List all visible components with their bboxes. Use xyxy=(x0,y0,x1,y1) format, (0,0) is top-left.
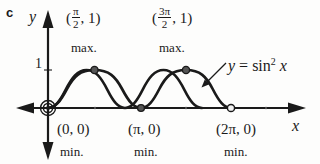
coordinate-label-two-pi: (2π, 0) xyxy=(216,122,256,137)
marked-point-peak-1 xyxy=(91,66,98,73)
min-label-pi: min. xyxy=(134,145,157,158)
marked-point-two-pi xyxy=(227,104,234,111)
marked-point-peak-2 xyxy=(182,66,189,73)
max-label-peak-1: max. xyxy=(71,41,97,54)
min-label-origin: min. xyxy=(60,145,83,158)
marked-point-pi xyxy=(138,105,145,112)
arrow-left-icon xyxy=(16,103,34,114)
marked-point-origin xyxy=(41,101,56,116)
arrow-down-icon xyxy=(43,142,54,160)
peak2-rest: , 1) xyxy=(172,10,192,26)
coordinate-label-pi: (π, 0) xyxy=(128,122,161,137)
peak1-open-paren: ( xyxy=(66,11,71,26)
peak1-denominator: 2 xyxy=(72,18,80,30)
arrow-right-icon xyxy=(288,103,306,114)
coordinate-label-peak-2: (3π2, 1) xyxy=(152,7,192,31)
curve-equation-label: y = sin2 x xyxy=(228,58,287,74)
peak2-numerator: 3π xyxy=(158,6,171,18)
equation-y: y xyxy=(228,57,235,74)
equation-function: sin xyxy=(252,57,271,74)
x-axis-label: x xyxy=(292,118,299,134)
peak1-fraction: π2 xyxy=(72,6,80,30)
figure-container: c y x 1 (π2, 1) (3π2, 1) max. max. (0, 0… xyxy=(0,0,320,164)
coordinate-label-peak-1: (π2, 1) xyxy=(66,7,101,31)
curve-label-leader xyxy=(202,63,227,88)
equation-variable: x xyxy=(280,57,287,74)
equation-equals: = xyxy=(239,57,248,74)
peak1-numerator: π xyxy=(72,6,80,18)
y-axis-tick-label: 1 xyxy=(35,57,42,71)
peak2-fraction: 3π2 xyxy=(158,6,171,30)
arrow-up-icon xyxy=(43,10,54,28)
peak1-rest: , 1) xyxy=(81,10,101,26)
y-axis-label: y xyxy=(29,9,36,25)
sine-squared-curve xyxy=(48,70,202,108)
peak2-denominator: 2 xyxy=(158,18,171,30)
sine-squared-curve-arch-1 xyxy=(48,70,141,108)
peak2-open-paren: ( xyxy=(152,11,157,26)
part-letter: c xyxy=(6,6,13,19)
max-label-peak-2: max. xyxy=(159,41,185,54)
min-label-two-pi: min. xyxy=(224,145,247,158)
equation-exponent: 2 xyxy=(271,56,276,67)
coordinate-label-origin: (0, 0) xyxy=(57,122,90,137)
sine-squared-curve-arch-2 xyxy=(141,70,231,108)
